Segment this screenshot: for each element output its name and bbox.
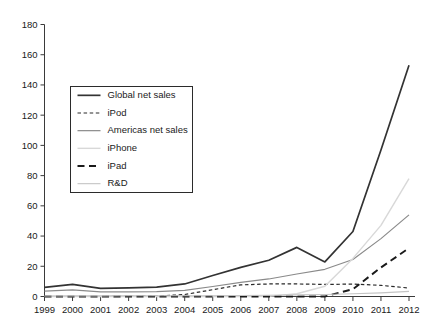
line-chart: 020406080100120140160180 199920002001200… [0, 0, 425, 330]
y-axis: 020406080100120140160180 [22, 19, 45, 302]
x-tick-label: 2002 [118, 304, 139, 315]
x-tick-label: 2009 [314, 304, 335, 315]
y-tick-label: 60 [27, 200, 38, 211]
legend-label-3: Americas net sales [108, 124, 189, 135]
legend-label-4: iPhone [108, 142, 138, 153]
legend-box [71, 87, 193, 193]
legend-label-2: iPod [108, 107, 127, 118]
y-tick-label: 160 [22, 49, 38, 60]
y-tick-label: 0 [32, 291, 37, 302]
x-tick-label: 2000 [62, 304, 83, 315]
legend-label-6: R&D [108, 177, 128, 188]
x-tick-label: 2008 [286, 304, 307, 315]
legend-label-1: Global net sales [108, 89, 176, 100]
y-tick-label: 80 [27, 170, 38, 181]
x-tick-label: 2011 [371, 304, 391, 315]
x-tick-label: 2004 [174, 304, 195, 315]
x-tick-label: 2006 [230, 304, 251, 315]
x-tick-label: 1999 [34, 304, 55, 315]
x-tick-label: 2007 [258, 304, 279, 315]
x-tick-label: 2005 [202, 304, 223, 315]
y-tick-label: 40 [27, 230, 38, 241]
x-axis: 1999200020012002200320042005200620072008… [34, 297, 420, 315]
legend-label-5: iPad [108, 160, 127, 171]
x-tick-label: 2003 [146, 304, 167, 315]
chart-legend: Global net salesiPodAmericas net salesiP… [71, 87, 193, 193]
y-tick-label: 120 [22, 110, 38, 121]
y-tick-label: 100 [22, 140, 38, 151]
y-tick-label: 180 [22, 19, 38, 30]
x-tick-label: 2010 [342, 304, 363, 315]
y-tick-label: 140 [22, 79, 38, 90]
y-tick-label: 20 [27, 261, 38, 272]
x-tick-label: 2012 [398, 304, 419, 315]
chart-canvas: 020406080100120140160180 199920002001200… [0, 0, 425, 330]
series-line-ipad [45, 248, 410, 296]
x-tick-label: 2001 [90, 304, 111, 315]
series-line-iphone [45, 179, 410, 297]
series-line-ipod [45, 284, 410, 297]
